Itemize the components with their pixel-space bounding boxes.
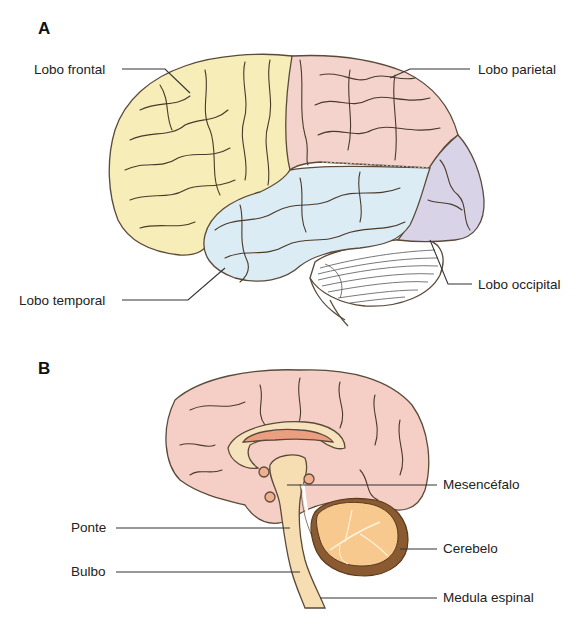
- label-lobo-temporal: Lobo temporal: [19, 293, 105, 309]
- lateral-brain: [109, 54, 484, 326]
- parietal-lobe: [286, 56, 458, 170]
- nucleus-left: [259, 467, 269, 477]
- label-bulbo: Bulbo: [71, 564, 106, 580]
- label-ponte: Ponte: [71, 520, 106, 536]
- label-cerebelo: Cerebelo: [443, 541, 498, 557]
- label-medula-espinal: Medula espinal: [443, 590, 534, 606]
- leader-temporal: [122, 268, 225, 300]
- label-lobo-frontal: Lobo frontal: [34, 62, 105, 78]
- nucleus-right: [304, 474, 314, 484]
- label-lobo-occipital: Lobo occipital: [478, 277, 561, 293]
- label-lobo-parietal: Lobo parietal: [478, 62, 556, 78]
- label-mesencefalo: Mesencéfalo: [443, 477, 520, 493]
- nucleus-lower: [265, 492, 275, 502]
- cerebellum-medial: [311, 499, 408, 577]
